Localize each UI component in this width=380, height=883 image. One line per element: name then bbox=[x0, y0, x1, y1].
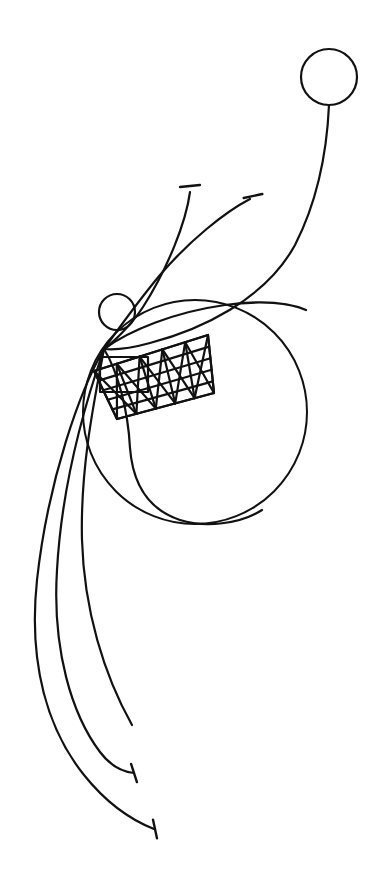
drawing-canvas bbox=[0, 0, 380, 883]
line-drawing-svg bbox=[0, 0, 380, 883]
background bbox=[0, 0, 380, 883]
